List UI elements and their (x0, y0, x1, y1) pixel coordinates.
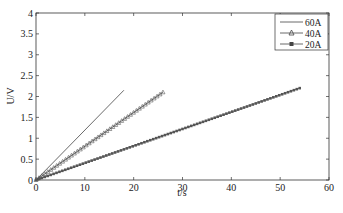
y-axis-label: U/V (5, 87, 16, 105)
x-tick-label: 60 (324, 182, 334, 193)
x-axis-label: t/s (177, 187, 187, 198)
y-tick-label: 1.5 (21, 112, 34, 123)
y-tick-label: 2 (28, 91, 33, 102)
x-tick-label: 40 (226, 182, 236, 193)
series-40a (34, 90, 165, 181)
line-chart: 0102030405060 00.511.522.533.54 t/s U/V … (0, 0, 343, 213)
legend-label: 40A (305, 29, 322, 39)
x-tick-label: 10 (80, 182, 90, 193)
y-tick-label: 3.5 (21, 28, 34, 39)
legend: 60A 40A 20A (275, 14, 328, 50)
series-20a (35, 87, 301, 181)
star-marker-icon (290, 42, 294, 46)
x-tick-label: 0 (34, 182, 39, 193)
y-tick-label: 0.5 (21, 154, 34, 165)
legend-label: 20A (305, 40, 322, 50)
y-tick-label: 4 (28, 8, 33, 19)
legend-label: 60A (305, 18, 322, 28)
series-layer (34, 87, 301, 182)
y-tick-label: 3 (28, 49, 33, 60)
y-tick-label: 1 (28, 133, 33, 144)
series-60a (36, 90, 124, 180)
y-tick-label: 0 (28, 175, 33, 186)
x-tick-label: 20 (129, 182, 139, 193)
x-tick-label: 50 (275, 182, 285, 193)
y-tick-label: 2.5 (21, 70, 34, 81)
